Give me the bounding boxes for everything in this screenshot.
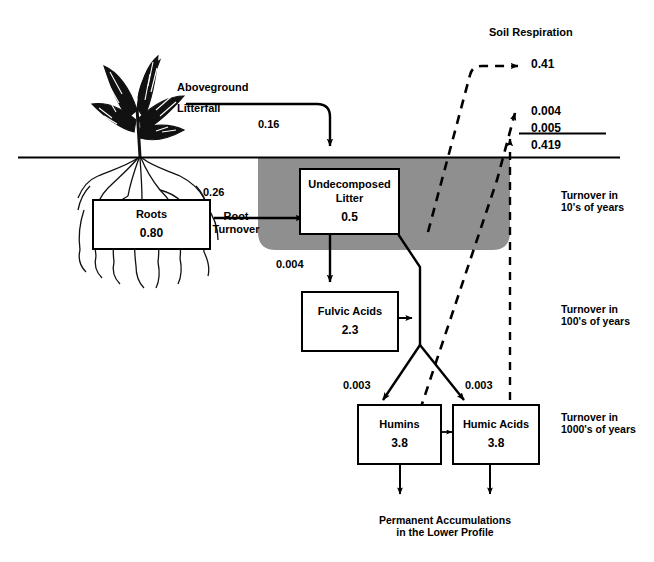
pool-box-undecomposed-litter[interactable]: Undecomposed Litter 0.5 [299,168,400,235]
flux-value-root-turnover: 0.26 [203,186,224,199]
label-aboveground: Aboveground [177,81,249,94]
turnover-note-1000s-l2: 1000's of years [561,423,636,435]
respiration-value-1: 0.41 [531,58,554,72]
label-root-turnover-l2: Turnover [213,223,260,235]
pool-name-humins: Humins [379,418,419,432]
turnover-note-1000s: Turnover in 1000's of years [561,411,636,435]
respiration-value-2: 0.004 [531,105,561,119]
turnover-note-1000s-l1: Turnover in [561,411,618,423]
label-root-turnover: Root Turnover [198,210,274,235]
turnover-note-100s: Turnover in 100's of years [561,303,630,327]
label-root-turnover-l1: Root [223,210,248,222]
flux-value-to-humic-acids: 0.003 [465,379,493,392]
footer-caption-l2: in the Lower Profile [396,526,493,538]
turnover-note-10s-l1: Turnover in [561,189,618,201]
label-litterfall: Litterfall [177,102,220,115]
pool-box-fulvic-acids[interactable]: Fulvic Acids 2.3 [301,291,399,352]
pool-name-fulvic-acids: Fulvic Acids [318,305,382,319]
pool-name-humic-acids: Humic Acids [463,418,529,432]
respiration-value-3: 0.005 [531,122,561,136]
pool-value-humins: 3.8 [391,436,408,451]
respiration-total: 0.419 [531,139,561,153]
pool-value-roots: 0.80 [140,226,163,241]
flux-value-to-humins: 0.003 [343,379,371,392]
pool-value-fulvic-acids: 2.3 [342,323,359,338]
turnover-note-100s-l2: 100's of years [561,315,630,327]
diagram-canvas: Roots 0.80 Undecomposed Litter 0.5 Fulvi… [0,0,654,562]
pool-name-undecomposed-litter-2: Litter [336,192,364,206]
turnover-note-10s-l2: 10's of years [561,201,624,213]
footer-caption: Permanent Accumulations in the Lower Pro… [305,514,585,538]
flux-value-litterfall: 0.16 [258,118,279,131]
pool-name-roots: Roots [136,208,167,222]
pool-box-humic-acids[interactable]: Humic Acids 3.8 [452,404,540,465]
pool-name-undecomposed-litter: Undecomposed [308,178,391,192]
pool-value-undecomposed-litter: 0.5 [341,210,358,225]
footer-caption-l1: Permanent Accumulations [379,514,511,526]
diagram-graphics [0,0,654,562]
turnover-note-10s: Turnover in 10's of years [561,189,624,213]
soil-respiration-title: Soil Respiration [489,26,573,39]
pool-value-humic-acids: 3.8 [488,436,505,451]
turnover-note-100s-l1: Turnover in [561,303,618,315]
flux-value-litter-to-fulvic: 0.004 [276,258,304,271]
pool-box-roots[interactable]: Roots 0.80 [92,199,211,250]
pool-box-humins[interactable]: Humins 3.8 [357,404,442,465]
